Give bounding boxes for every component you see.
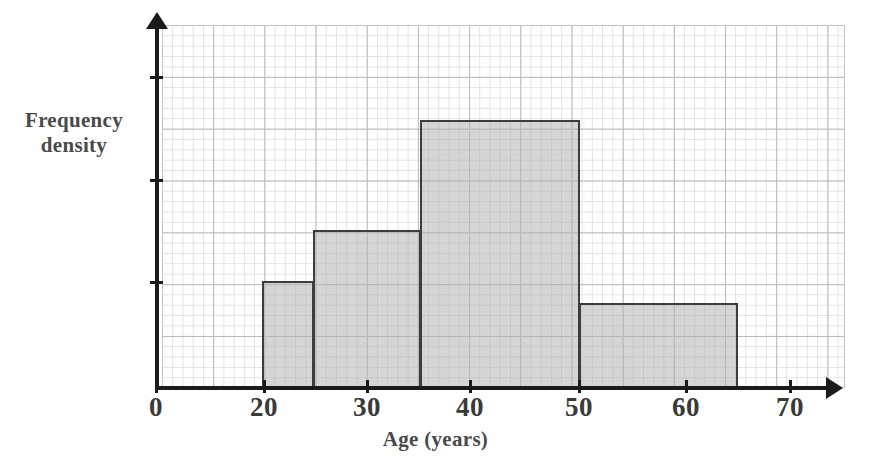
- y-tick-2: [150, 179, 163, 182]
- x-tick-label-40: 40: [440, 392, 500, 423]
- histogram-bar-25-35: [313, 230, 421, 388]
- x-tick-label-60: 60: [656, 392, 716, 423]
- y-axis-title-line2: density: [4, 133, 144, 158]
- x-tick-label-0: 0: [126, 392, 186, 423]
- x-axis-arrow-icon: [826, 377, 843, 399]
- y-tick-3: [150, 76, 163, 79]
- x-tick-label-50: 50: [549, 392, 609, 423]
- histogram-bar-50-65: [579, 303, 738, 388]
- x-tick-label-30: 30: [337, 392, 397, 423]
- x-axis-title: Age (years): [0, 427, 871, 452]
- y-tick-1: [150, 281, 163, 284]
- histogram-bar-35-50: [420, 120, 580, 388]
- y-axis-title: Frequency density: [4, 108, 144, 158]
- histogram-figure: 0 20 30 40 50 60 70 Frequency density Ag…: [0, 0, 871, 461]
- x-tick-label-70: 70: [760, 392, 820, 423]
- histogram-bar-20-25: [262, 281, 314, 388]
- y-axis-title-line1: Frequency: [4, 108, 144, 133]
- y-axis-arrow-icon: [146, 12, 168, 29]
- x-axis-line: [156, 386, 838, 390]
- x-tick-label-20: 20: [234, 392, 294, 423]
